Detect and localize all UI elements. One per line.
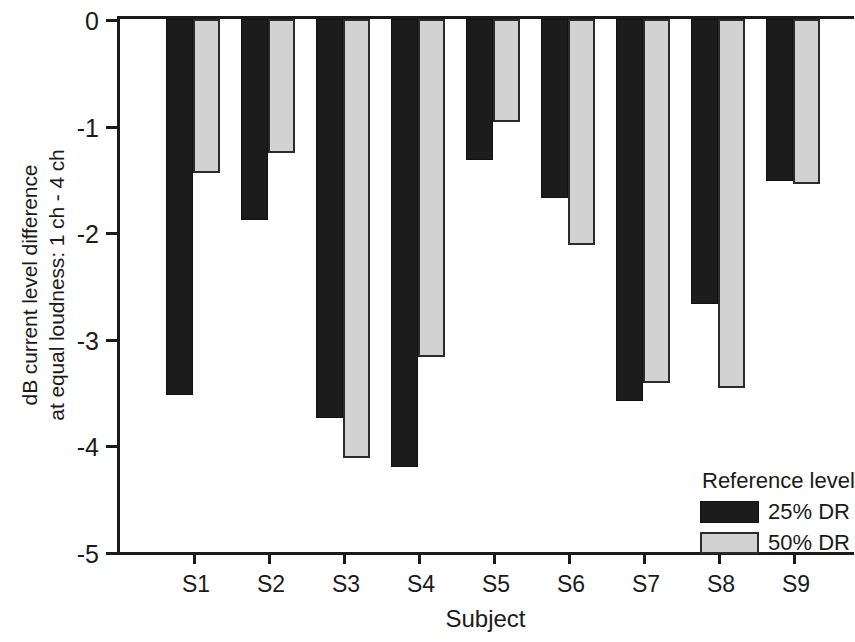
y-axis-tick: -2 bbox=[106, 232, 120, 235]
x-axis-tick-label: S2 bbox=[257, 572, 285, 596]
legend-label-25-dr: 25% DR bbox=[768, 497, 850, 526]
y-axis-tick: 0 bbox=[106, 19, 120, 22]
bar-s9-50-dr bbox=[793, 19, 820, 184]
x-axis-tick: S1 bbox=[193, 552, 196, 564]
legend-item-25-dr: 25% DR bbox=[700, 497, 855, 526]
bar-s7-50-dr bbox=[643, 19, 670, 383]
bar-s7-25-dr bbox=[616, 19, 643, 401]
y-axis-tick-label: -1 bbox=[77, 115, 99, 141]
bar-s2-25-dr bbox=[241, 19, 268, 220]
bar-s4-50-dr bbox=[418, 19, 445, 357]
y-axis-tick: -3 bbox=[106, 339, 120, 342]
bar-s5-25-dr bbox=[466, 19, 493, 160]
y-axis-tick: -1 bbox=[106, 126, 120, 129]
bar-s2-50-dr bbox=[268, 19, 295, 153]
legend-item-50-dr: 50% DR bbox=[700, 528, 855, 557]
bar-s9-25-dr bbox=[766, 19, 793, 181]
bar-s3-50-dr bbox=[343, 19, 370, 458]
x-axis-tick-label: S4 bbox=[407, 572, 435, 596]
y-axis-tick: -5 bbox=[106, 552, 120, 555]
y-axis-tick-label: -3 bbox=[77, 328, 99, 354]
bar-s1-50-dr bbox=[193, 19, 220, 173]
bar-s4-25-dr bbox=[391, 19, 418, 467]
bar-s8-50-dr bbox=[718, 19, 745, 388]
bar-s8-25-dr bbox=[691, 19, 718, 304]
bar-s1-25-dr bbox=[166, 19, 193, 395]
x-axis-tick-label: S6 bbox=[557, 572, 585, 596]
legend-label-50-dr: 50% DR bbox=[768, 528, 850, 557]
legend-title: Reference level bbox=[702, 466, 855, 495]
x-axis-tick-label: S5 bbox=[482, 572, 510, 596]
y-axis-title: dB current level difference at equal lou… bbox=[0, 0, 86, 570]
y-axis-tick-label: -5 bbox=[77, 541, 99, 567]
x-axis-tick-label: S7 bbox=[632, 572, 660, 596]
legend: Reference level 25% DR 50% DR bbox=[700, 466, 855, 559]
x-axis-tick-label: S1 bbox=[182, 572, 210, 596]
x-axis-tick-label: S3 bbox=[332, 572, 360, 596]
bar-s3-25-dr bbox=[316, 19, 343, 418]
y-axis-tick-label: 0 bbox=[85, 8, 99, 34]
y-axis-title-line-2: at equal loudness: 1 ch - 4 ch bbox=[43, 149, 70, 420]
y-axis-tick-label: -4 bbox=[77, 434, 99, 460]
bar-s5-50-dr bbox=[493, 19, 520, 122]
x-axis-tick: S6 bbox=[568, 552, 571, 564]
legend-swatch-50-dr bbox=[700, 532, 759, 554]
x-axis-title: Subject bbox=[117, 606, 854, 632]
x-axis-tick-label: S9 bbox=[782, 572, 810, 596]
x-axis-tick: S5 bbox=[493, 552, 496, 564]
x-axis-tick: S2 bbox=[268, 552, 271, 564]
x-axis-tick: S7 bbox=[643, 552, 646, 564]
y-axis-title-line-1: dB current level difference bbox=[16, 149, 43, 420]
x-axis-tick-label: S8 bbox=[707, 572, 735, 596]
x-axis-tick: S4 bbox=[418, 552, 421, 564]
bar-s6-50-dr bbox=[568, 19, 595, 245]
bar-s6-25-dr bbox=[541, 19, 568, 198]
x-axis-tick: S3 bbox=[343, 552, 346, 564]
y-axis-tick: -4 bbox=[106, 445, 120, 448]
y-axis-tick-label: -2 bbox=[77, 221, 99, 247]
legend-swatch-25-dr bbox=[700, 501, 759, 523]
